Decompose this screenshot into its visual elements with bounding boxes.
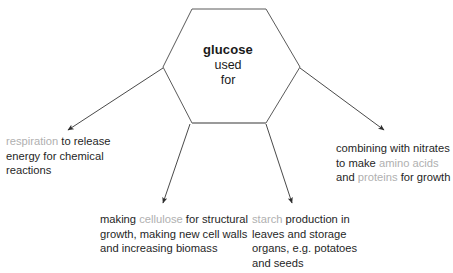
text-run-term: amino acids xyxy=(379,157,439,169)
arrow-to-respiration xyxy=(68,68,163,130)
text-run-term: starch xyxy=(252,213,282,225)
arrow-to-starch xyxy=(266,124,292,203)
branch-note-respiration: respiration to release energy for chemic… xyxy=(6,134,136,178)
arrow-to-cellulose xyxy=(163,124,190,203)
text-run-plain: and xyxy=(336,171,358,183)
text-run-plain: making xyxy=(100,213,139,225)
diagram-canvas: glucose used for respiration to release … xyxy=(0,0,453,273)
text-run-plain: for growth xyxy=(398,171,451,183)
hexagon-label-line1: glucose xyxy=(178,42,278,58)
text-run-term: respiration xyxy=(6,135,58,147)
text-run-term: cellulose xyxy=(139,213,183,225)
hexagon-label-line2: used xyxy=(178,58,278,74)
branch-note-cellulose: making cellulose for structural growth, … xyxy=(100,212,250,256)
branch-note-starch: starch production in leaves and storage … xyxy=(252,212,377,270)
hexagon-label: glucose used for xyxy=(178,42,278,89)
text-run-term: proteins xyxy=(358,171,398,183)
branch-note-protein: combining with nitrates to make amino ac… xyxy=(336,141,453,185)
hexagon-label-line3: for xyxy=(178,73,278,89)
arrow-to-protein xyxy=(300,68,384,130)
